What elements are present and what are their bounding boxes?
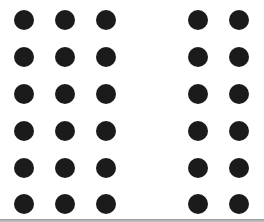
- left-group-dot: [96, 194, 116, 214]
- right-group-dot: [229, 158, 249, 178]
- right-group-dot: [229, 84, 249, 104]
- right-group-dot: [229, 121, 249, 141]
- left-group-dot: [55, 47, 75, 67]
- left-group-dot: [14, 194, 34, 214]
- left-group-dot: [14, 121, 34, 141]
- left-group-dot: [96, 47, 116, 67]
- right-group-dot: [188, 47, 208, 67]
- right-group-dot: [229, 194, 249, 214]
- left-group-dot: [55, 10, 75, 30]
- right-group-dot: [229, 47, 249, 67]
- left-group-dot: [96, 121, 116, 141]
- left-group-dot: [55, 158, 75, 178]
- left-group-dot: [55, 194, 75, 214]
- left-group-dot: [96, 10, 116, 30]
- left-group-dot: [55, 84, 75, 104]
- left-group-dot: [96, 158, 116, 178]
- left-group-dot: [14, 10, 34, 30]
- left-group-dot: [14, 84, 34, 104]
- left-group-dot: [14, 47, 34, 67]
- right-group-dot: [188, 121, 208, 141]
- right-group-dot: [188, 158, 208, 178]
- left-group-dot: [14, 158, 34, 178]
- right-group-dot: [188, 84, 208, 104]
- bottom-divider: [0, 219, 264, 222]
- left-group-dot: [55, 121, 75, 141]
- right-group-dot: [188, 194, 208, 214]
- right-group-dot: [188, 10, 208, 30]
- right-group-dot: [229, 10, 249, 30]
- left-group-dot: [96, 84, 116, 104]
